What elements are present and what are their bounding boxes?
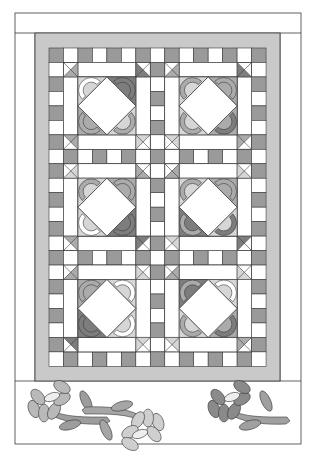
sashing-square <box>49 294 63 308</box>
sashing-square <box>78 352 92 366</box>
sashing-square <box>92 352 106 366</box>
sashing-square <box>49 135 63 149</box>
frame-strip-left <box>63 178 77 236</box>
sashing-square <box>49 280 63 294</box>
frame-strip-left <box>165 178 179 236</box>
sashing-square <box>179 149 193 163</box>
sashing-square <box>150 265 164 279</box>
sashing-square <box>223 48 237 62</box>
sashing-square <box>150 323 164 337</box>
frame-strip-left <box>165 280 179 338</box>
sashing-square <box>179 251 193 265</box>
sashing-square <box>150 91 164 105</box>
sashing-square <box>78 48 92 62</box>
sashing-square <box>252 308 266 322</box>
sashing-square <box>179 352 193 366</box>
frame-strip-top <box>78 164 136 178</box>
sashing-square <box>194 48 208 62</box>
frame-strip-bottom <box>78 135 136 149</box>
sashing-square <box>208 251 222 265</box>
sashing-square <box>150 120 164 134</box>
sashing-square <box>252 337 266 351</box>
sashing-square <box>237 251 251 265</box>
sashing-square <box>136 251 150 265</box>
sashing-square <box>92 251 106 265</box>
sashing-square <box>252 236 266 250</box>
sashing-square <box>252 323 266 337</box>
sashing-square <box>223 149 237 163</box>
sashing-square <box>63 352 77 366</box>
sashing-square <box>107 352 121 366</box>
sashing-square <box>252 106 266 120</box>
sashing-square <box>252 164 266 178</box>
block-top-left <box>63 62 150 149</box>
sashing-square <box>150 251 164 265</box>
sashing-square <box>150 222 164 236</box>
frame-strip-left <box>165 77 179 135</box>
sashing-square <box>49 236 63 250</box>
sashing-square <box>252 77 266 91</box>
sashing-square <box>165 48 179 62</box>
sashing-square <box>252 48 266 62</box>
sashing-square <box>92 48 106 62</box>
sashing-square <box>208 48 222 62</box>
sashing-square <box>150 62 164 76</box>
sashing-square <box>237 352 251 366</box>
sashing-square <box>150 207 164 221</box>
sashing-square <box>150 294 164 308</box>
frame-strip-bottom <box>78 236 136 250</box>
sashing-square <box>194 251 208 265</box>
frame-strip-bottom <box>179 236 237 250</box>
sashing-square <box>252 207 266 221</box>
sashing-square <box>63 149 77 163</box>
sashing-square <box>49 265 63 279</box>
sashing-square <box>252 294 266 308</box>
sashing-square <box>49 308 63 322</box>
sashing-square <box>78 251 92 265</box>
sashing-square <box>78 149 92 163</box>
sashing-square <box>150 280 164 294</box>
sashing-square <box>49 178 63 192</box>
sashing-square <box>223 352 237 366</box>
frame-strip-right <box>136 77 150 135</box>
sashing-square <box>252 251 266 265</box>
sashing-square <box>223 251 237 265</box>
block-top-right <box>165 62 252 149</box>
sashing-square <box>165 352 179 366</box>
sashing-square <box>92 149 106 163</box>
sashing-square <box>252 222 266 236</box>
sashing-square <box>165 251 179 265</box>
sashing-square <box>136 352 150 366</box>
sashing-square <box>121 149 135 163</box>
sashing-square <box>252 62 266 76</box>
sashing-square <box>150 352 164 366</box>
frame-strip-top <box>78 265 136 279</box>
sashing-square <box>150 337 164 351</box>
sashing-square <box>150 178 164 192</box>
sashing-square <box>150 106 164 120</box>
sashing-square <box>49 222 63 236</box>
sashing-square <box>150 77 164 91</box>
frame-strip-bottom <box>78 337 136 351</box>
sashing-square <box>107 48 121 62</box>
sashing-square <box>136 149 150 163</box>
sashing-square <box>49 62 63 76</box>
sashing-square <box>49 251 63 265</box>
sashing-square <box>150 164 164 178</box>
sashing-square <box>136 48 150 62</box>
frame-strip-top <box>78 62 136 76</box>
frame-strip-right <box>237 280 251 338</box>
frame-strip-top <box>179 265 237 279</box>
sashing-square <box>150 236 164 250</box>
sashing-square <box>49 207 63 221</box>
frame-strip-left <box>63 77 77 135</box>
sashing-square <box>49 48 63 62</box>
sashing-square <box>49 149 63 163</box>
frame-strip-top <box>179 62 237 76</box>
sashing-square <box>107 149 121 163</box>
sashing-square <box>252 265 266 279</box>
sashing-square <box>63 251 77 265</box>
sashing-square <box>49 106 63 120</box>
sashing-square <box>150 135 164 149</box>
frame-strip-right <box>136 280 150 338</box>
